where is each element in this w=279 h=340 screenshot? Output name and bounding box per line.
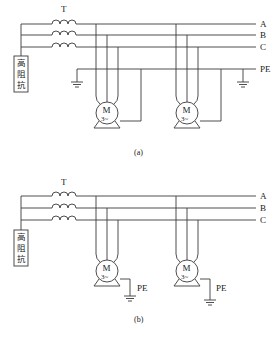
label-b: B	[260, 203, 266, 213]
svg-text:M: M	[183, 263, 191, 273]
svg-text:阻: 阻	[17, 243, 26, 253]
svg-text:高: 高	[17, 232, 26, 242]
svg-text:3~: 3~	[181, 115, 189, 123]
label-pe: PE	[260, 64, 271, 74]
caption-a: (a)	[134, 148, 143, 157]
label-a: A	[260, 191, 267, 201]
pe-label: PE	[216, 283, 227, 293]
motor-2: M 3~	[174, 24, 221, 128]
high-impedance-box: 高 阻 抗	[14, 230, 28, 266]
label-c: C	[260, 215, 266, 225]
svg-text:3~: 3~	[101, 273, 109, 281]
pe-label: PE	[137, 283, 148, 293]
svg-text:3~: 3~	[101, 115, 109, 123]
svg-text:3~: 3~	[181, 273, 189, 281]
label-b: B	[260, 30, 266, 40]
label-a: A	[260, 19, 267, 29]
label-c: C	[260, 42, 266, 52]
ground-icon	[237, 82, 249, 87]
diagram-b: T A B C 高 阻 抗	[14, 177, 267, 324]
diagram-a: T A B C PE 高 阻 抗	[14, 4, 271, 157]
transformer-label: T	[61, 4, 67, 14]
motor-2: M 3~ PE	[174, 196, 227, 305]
svg-text:抗: 抗	[17, 80, 26, 90]
grounding-diagrams: T A B C PE 高 阻 抗	[0, 0, 279, 340]
svg-text:抗: 抗	[17, 254, 26, 264]
motor-1: M 3~	[94, 24, 141, 128]
transformer-coils	[52, 192, 76, 220]
transformer-label: T	[61, 177, 67, 187]
ground-icon	[71, 82, 83, 87]
motor-1: M 3~ PE	[94, 196, 148, 301]
ground-icon	[124, 296, 136, 301]
svg-text:M: M	[183, 105, 191, 115]
svg-text:阻: 阻	[17, 69, 26, 79]
svg-text:高: 高	[17, 58, 26, 68]
ground-icon	[204, 300, 216, 305]
svg-text:M: M	[103, 105, 111, 115]
transformer-coils	[52, 20, 76, 47]
svg-text:M: M	[103, 263, 111, 273]
caption-b: (b)	[134, 315, 144, 324]
high-impedance-box: 高 阻 抗	[14, 56, 28, 92]
